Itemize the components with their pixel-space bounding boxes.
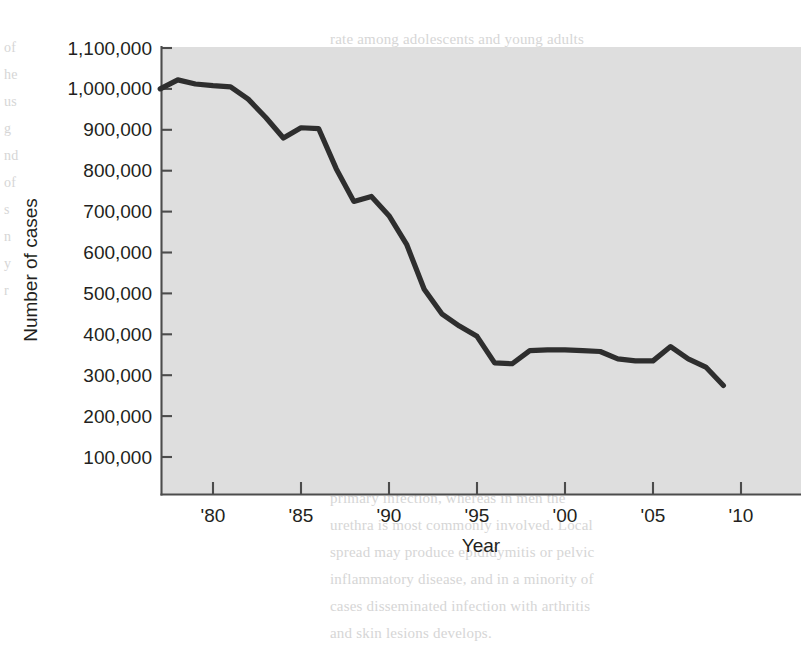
x-tick-label: '00: [553, 505, 578, 526]
y-tick-label: 300,000: [83, 365, 152, 386]
y-tick-label: 400,000: [83, 324, 152, 345]
y-tick-label: 700,000: [83, 201, 152, 222]
y-tick-label: 500,000: [83, 283, 152, 304]
x-tick-label: '85: [289, 505, 314, 526]
y-axis-tick-labels: 100,000200,000300,000400,000500,000600,0…: [67, 38, 152, 468]
x-tick-label: '10: [729, 505, 754, 526]
y-tick-label: 100,000: [83, 447, 152, 468]
y-tick-label: 200,000: [83, 406, 152, 427]
y-tick-label: 1,100,000: [67, 38, 152, 59]
x-tick-label: '80: [201, 505, 226, 526]
y-tick-label: 900,000: [83, 119, 152, 140]
x-tick-label: '95: [465, 505, 490, 526]
x-axis-tick-labels: '80'85'90'95'00'05'10: [201, 505, 754, 526]
y-axis-title: Number of cases: [20, 198, 41, 342]
y-tick-label: 800,000: [83, 160, 152, 181]
x-tick-label: '90: [377, 505, 402, 526]
plot-area-background: [161, 47, 801, 494]
x-axis-title: Year: [462, 535, 501, 556]
y-tick-label: 600,000: [83, 242, 152, 263]
x-tick-label: '05: [641, 505, 666, 526]
y-tick-label: 1,000,000: [67, 78, 152, 99]
